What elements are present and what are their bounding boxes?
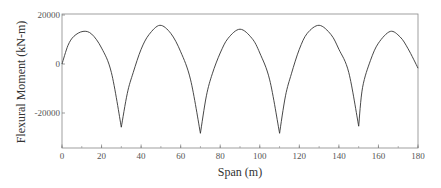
x-tick-label: 80 [216,151,226,161]
x-tick-label: 60 [176,151,186,161]
x-axis-label: Span (m) [218,165,262,179]
plot-border [62,14,418,148]
x-tick-label: 120 [293,151,307,161]
y-axis-ticks: 200000-20000 [35,10,66,118]
series-layer [62,25,418,133]
x-tick-label: 20 [97,151,107,161]
x-tick-label: 180 [411,151,425,161]
x-axis-ticks: 020406080100120140160180 [60,145,426,162]
x-tick-label: 0 [60,151,65,161]
y-tick-label: 0 [56,59,61,69]
y-axis-label: Flexural Moment (kN-m) [14,21,28,144]
plot-frame [62,14,418,148]
y-tick-label: 20000 [38,10,61,20]
x-tick-label: 140 [332,151,346,161]
y-tick-label: -20000 [35,108,61,118]
flexural-moment-chart: 020406080100120140160180 200000-20000 Sp… [0,0,441,188]
x-tick-label: 40 [137,151,147,161]
moment-curve [62,25,418,133]
x-tick-label: 100 [253,151,267,161]
x-tick-label: 160 [372,151,386,161]
